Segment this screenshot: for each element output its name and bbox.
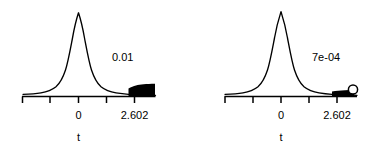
left-x-axis-label: t xyxy=(77,132,80,143)
t-distribution-plot-left: 0.01 0 2.602 t xyxy=(0,0,186,152)
right-tail-probability-label: 7e-04 xyxy=(312,52,340,63)
t-distribution-plot-right: 7e-04 0 2.602 t xyxy=(187,0,373,152)
left-tick-label-critical-value: 2.602 xyxy=(121,110,149,121)
right-x-axis-label: t xyxy=(279,132,282,143)
left-axis-ticks xyxy=(23,97,135,104)
right-axis-ticks xyxy=(225,97,337,104)
right-plot-canvas xyxy=(187,0,373,152)
left-tail-probability-label: 0.01 xyxy=(112,52,133,63)
right-tick-label-zero: 0 xyxy=(278,110,284,121)
right-tick-label-critical-value: 2.602 xyxy=(323,110,351,121)
statistics-figure: 0.01 0 2.602 t 7e-04 0 xyxy=(0,0,373,152)
right-tail-point-marker xyxy=(348,85,357,94)
left-plot-canvas xyxy=(0,0,186,152)
left-tick-label-zero: 0 xyxy=(75,110,81,121)
left-density-curve xyxy=(23,13,156,96)
